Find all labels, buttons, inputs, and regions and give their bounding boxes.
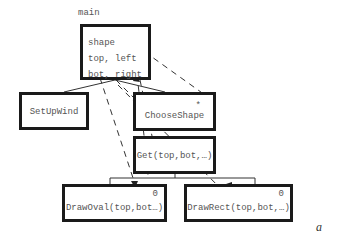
structure-chart: main shape top, left bot, right SetUpWin… — [0, 0, 341, 237]
chooseshape-label: ChooseShape — [136, 111, 213, 121]
main-variable-bot-right: bot, right — [88, 67, 142, 83]
chooseshape-module-box: * ChooseShape — [133, 92, 216, 131]
drawoval-marker: 0 — [153, 189, 158, 199]
drawrect-module-box: 0 DrawRect(top,bot,…) — [184, 184, 293, 222]
get-module-box: Get(top,bot,…) — [133, 136, 216, 174]
drawrect-label: DrawRect(top,bot,…) — [187, 203, 290, 213]
main-module-box: shape top, left bot, right — [80, 24, 151, 80]
setupwind-module-box: SetUpWind — [19, 92, 89, 130]
drawoval-module-box: 0 DrawOval(top,bot…) — [62, 184, 167, 222]
setupwind-label: SetUpWind — [22, 107, 86, 117]
get-label: Get(top,bot,…) — [136, 151, 213, 161]
drawoval-label: DrawOval(top,bot…) — [65, 203, 164, 213]
figure-tag: a — [316, 220, 322, 235]
drawrect-marker: 0 — [279, 189, 284, 199]
chooseshape-marker: * — [196, 101, 201, 111]
main-variable-top-left: top, left — [88, 51, 142, 67]
main-variable-shape: shape — [88, 35, 142, 51]
main-label: main — [78, 8, 100, 18]
